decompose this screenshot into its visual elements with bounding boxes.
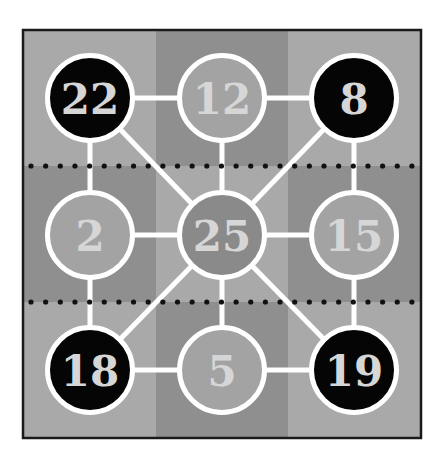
divider-dot: [58, 299, 63, 304]
graph-nodes: 221282251518519: [48, 56, 397, 413]
divider-dot: [190, 163, 195, 168]
node-label: 25: [193, 212, 251, 261]
node-label: 22: [61, 75, 119, 124]
node-label: 2: [75, 212, 104, 261]
puzzle-board: 221282251518519: [0, 0, 448, 466]
divider-dot: [263, 163, 268, 168]
node-18[interactable]: 18: [48, 328, 133, 413]
divider-dot: [204, 163, 209, 168]
divider-dot: [307, 299, 312, 304]
node-25[interactable]: 25: [180, 193, 265, 278]
divider-dot: [234, 163, 239, 168]
divider-dot: [395, 299, 400, 304]
divider-dot: [58, 163, 63, 168]
node-15[interactable]: 15: [312, 193, 397, 278]
divider-dot: [146, 299, 151, 304]
node-12[interactable]: 12: [180, 56, 265, 141]
divider-dot: [365, 163, 370, 168]
divider-dot: [321, 299, 326, 304]
node-5[interactable]: 5: [180, 328, 265, 413]
divider-dot: [160, 299, 165, 304]
divider-dot: [116, 163, 121, 168]
divider-dot: [219, 299, 224, 304]
divider-dot: [292, 163, 297, 168]
divider-dot: [116, 299, 121, 304]
divider-dot: [131, 299, 136, 304]
divider-dot: [248, 299, 253, 304]
node-19[interactable]: 19: [312, 328, 397, 413]
divider-dot: [336, 299, 341, 304]
divider-dot: [43, 163, 48, 168]
divider-dot: [204, 299, 209, 304]
node-label: 8: [339, 75, 368, 124]
divider-dot: [43, 299, 48, 304]
divider-dot: [72, 163, 77, 168]
divider-dot: [102, 163, 107, 168]
node-22[interactable]: 22: [48, 56, 133, 141]
node-label: 12: [193, 75, 251, 124]
divider-dot: [102, 299, 107, 304]
divider-dot: [277, 299, 282, 304]
divider-dot: [87, 163, 92, 168]
node-label: 19: [325, 347, 383, 396]
node-2[interactable]: 2: [48, 193, 133, 278]
divider-dot: [409, 299, 414, 304]
divider-dot: [175, 299, 180, 304]
divider-dot: [248, 163, 253, 168]
divider-dot: [336, 163, 341, 168]
node-label: 18: [61, 347, 119, 396]
divider-dot: [28, 299, 33, 304]
divider-dot: [160, 163, 165, 168]
divider-dot: [365, 299, 370, 304]
divider-dot: [190, 299, 195, 304]
divider-dot: [175, 163, 180, 168]
divider-dot: [277, 163, 282, 168]
divider-dot: [87, 299, 92, 304]
divider-dot: [380, 163, 385, 168]
divider-dot: [234, 299, 239, 304]
divider-dot: [292, 299, 297, 304]
node-label: 5: [207, 347, 236, 396]
divider-dot: [146, 163, 151, 168]
divider-dot: [28, 163, 33, 168]
divider-dot: [72, 299, 77, 304]
divider-dot: [351, 299, 356, 304]
divider-dot: [321, 163, 326, 168]
divider-dot: [307, 163, 312, 168]
divider-dot: [351, 163, 356, 168]
divider-dot: [131, 163, 136, 168]
divider-dot: [395, 163, 400, 168]
node-8[interactable]: 8: [312, 56, 397, 141]
divider-dot: [409, 163, 414, 168]
node-label: 15: [325, 212, 383, 261]
divider-dot: [263, 299, 268, 304]
divider-dot: [380, 299, 385, 304]
divider-dot: [219, 163, 224, 168]
